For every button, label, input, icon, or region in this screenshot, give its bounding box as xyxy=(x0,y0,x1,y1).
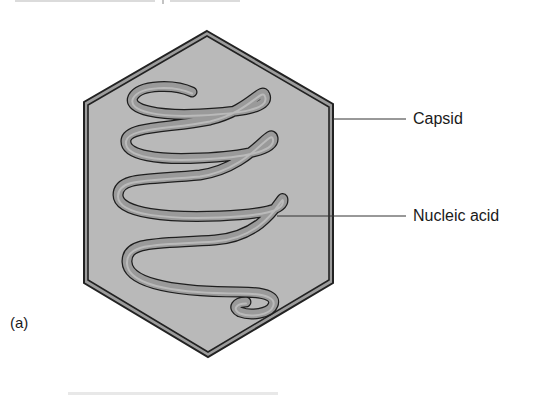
virus-diagram xyxy=(0,0,547,395)
nucleic-acid-label: Nucleic acid xyxy=(413,208,499,224)
capsid-label: Capsid xyxy=(413,111,463,127)
panel-label: (a) xyxy=(10,315,28,330)
